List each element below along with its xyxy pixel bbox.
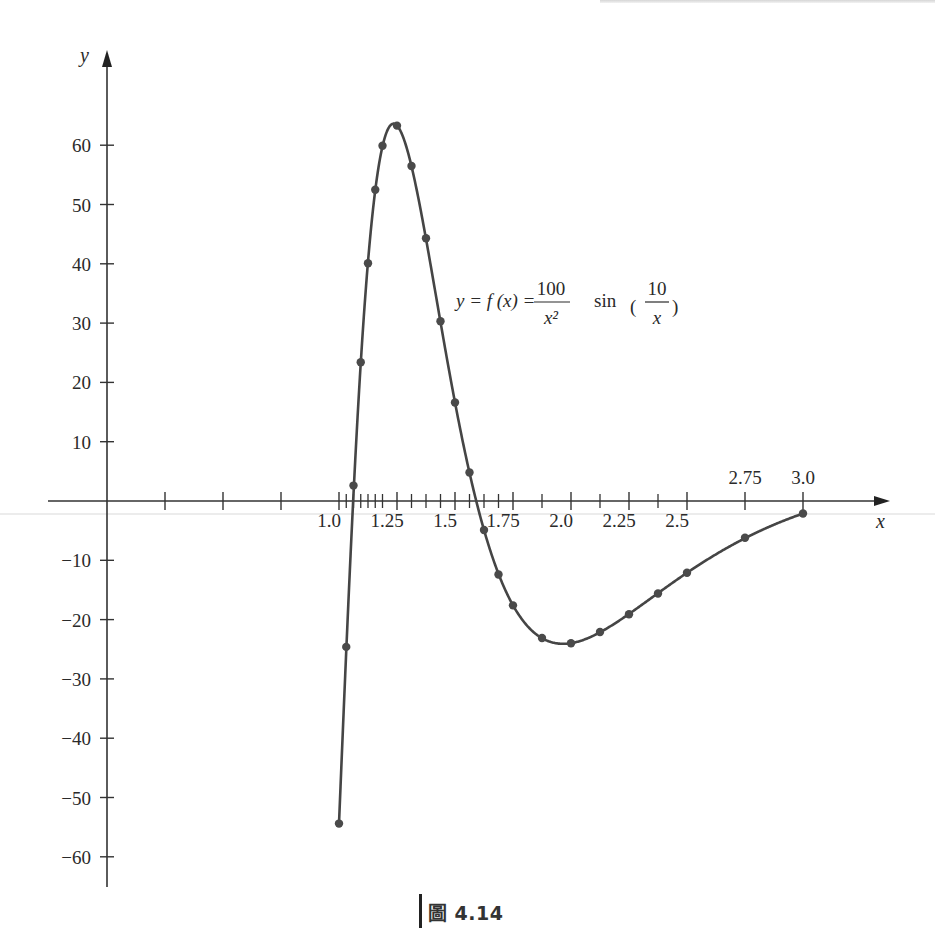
data-point bbox=[364, 259, 372, 267]
y-tick-label: 50 bbox=[72, 195, 91, 216]
data-point bbox=[357, 358, 365, 366]
data-point bbox=[436, 317, 444, 325]
caption-bar bbox=[419, 894, 422, 928]
x-tick-label: 1.0 bbox=[317, 510, 341, 531]
data-point bbox=[494, 570, 502, 578]
y-tick-label: −60 bbox=[61, 847, 91, 868]
data-point bbox=[349, 481, 357, 489]
data-point bbox=[509, 601, 517, 609]
y-tick-label: −30 bbox=[61, 669, 91, 690]
formula-numerator-10: 10 bbox=[648, 278, 667, 299]
data-point bbox=[465, 468, 473, 476]
y-tick-label: 30 bbox=[72, 313, 91, 334]
data-point bbox=[741, 534, 749, 542]
chart-figure: 1.01.251.51.752.02.252.52.753.0605040302… bbox=[0, 0, 935, 943]
y-tick-label: −10 bbox=[61, 550, 91, 571]
paren-left: ( bbox=[630, 296, 636, 318]
x-tick-label: 1.75 bbox=[486, 510, 519, 531]
data-point bbox=[683, 569, 691, 577]
y-tick-label: 60 bbox=[72, 135, 91, 156]
data-point bbox=[567, 639, 575, 647]
data-point bbox=[371, 185, 379, 193]
formula-sin: sin bbox=[594, 290, 617, 311]
data-point bbox=[654, 589, 662, 597]
x-tick-label: 3.0 bbox=[791, 467, 815, 488]
x-tick-label: 2.75 bbox=[728, 467, 761, 488]
data-point bbox=[625, 610, 633, 618]
data-point bbox=[538, 634, 546, 642]
x-tick-label: 2.0 bbox=[549, 510, 573, 531]
x-axis-label: x bbox=[875, 510, 885, 532]
y-tick-label: 10 bbox=[72, 432, 91, 453]
formula-prefix: y = f (x) = bbox=[454, 290, 535, 312]
y-tick-label: 40 bbox=[72, 254, 91, 275]
formula-denominator-x2: x² bbox=[543, 307, 558, 328]
paren-right: ) bbox=[672, 296, 678, 318]
y-axis-arrow-icon bbox=[102, 50, 112, 67]
x-tick-label: 1.25 bbox=[370, 510, 403, 531]
data-point bbox=[393, 121, 401, 129]
data-point bbox=[596, 628, 604, 636]
y-tick-label: 20 bbox=[72, 372, 91, 393]
y-tick-label: −40 bbox=[61, 728, 91, 749]
y-tick-label: −50 bbox=[61, 788, 91, 809]
data-point bbox=[422, 234, 430, 242]
data-point bbox=[407, 162, 415, 170]
formula-numerator-100: 100 bbox=[537, 278, 566, 299]
figure-caption: 圖 4.14 bbox=[419, 893, 504, 929]
data-point bbox=[342, 643, 350, 651]
data-point bbox=[451, 398, 459, 406]
data-point bbox=[480, 526, 488, 534]
x-axis-arrow-icon bbox=[874, 496, 890, 506]
function-formula: y = f (x) = 100 x² sin ( 10 x ) bbox=[454, 278, 678, 328]
formula-denominator-x: x bbox=[652, 307, 662, 328]
data-point bbox=[799, 509, 807, 517]
x-tick-label: 1.5 bbox=[433, 510, 457, 531]
y-axis-label: y bbox=[78, 44, 89, 67]
caption-text: 圖 4.14 bbox=[428, 898, 504, 925]
data-point bbox=[335, 819, 343, 827]
data-point bbox=[378, 142, 386, 150]
x-tick-label: 2.5 bbox=[665, 510, 689, 531]
x-tick-label: 2.25 bbox=[602, 510, 635, 531]
y-tick-label: −20 bbox=[61, 610, 91, 631]
